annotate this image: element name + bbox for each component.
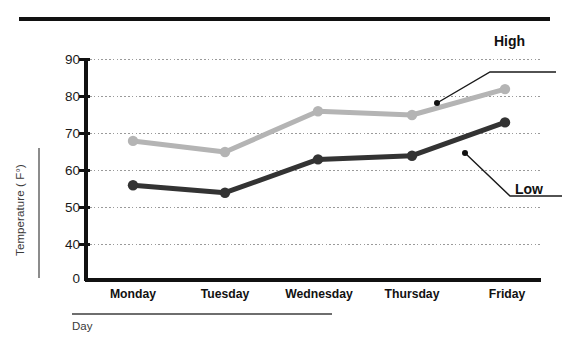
- data-point: [128, 136, 138, 146]
- data-point: [220, 147, 230, 157]
- data-point: [313, 106, 323, 116]
- series-low-points: [128, 117, 510, 198]
- chart-screenshot: Temperature ( F°) 90 80 70 60 50 40 0: [0, 0, 568, 350]
- x-axis-title-rule: [72, 313, 332, 315]
- high-leader-anchor-dot: [434, 100, 440, 106]
- x-axis-title-label: Day: [72, 320, 92, 332]
- data-point: [500, 84, 510, 94]
- series-high: [128, 84, 510, 157]
- data-point: [500, 117, 510, 127]
- series-low: [128, 117, 510, 198]
- series-label-high: High: [494, 33, 525, 49]
- high-leader-line: [437, 72, 556, 103]
- data-point: [313, 154, 323, 164]
- data-point: [128, 180, 138, 190]
- data-point: [407, 151, 417, 161]
- gridlines: [90, 60, 540, 245]
- x-tick-friday: Friday: [447, 287, 567, 301]
- series-label-low: Low: [515, 181, 543, 197]
- data-point: [407, 110, 417, 120]
- low-leader-anchor-dot: [462, 150, 468, 156]
- data-point: [220, 188, 230, 198]
- low-leader-line: [465, 153, 562, 196]
